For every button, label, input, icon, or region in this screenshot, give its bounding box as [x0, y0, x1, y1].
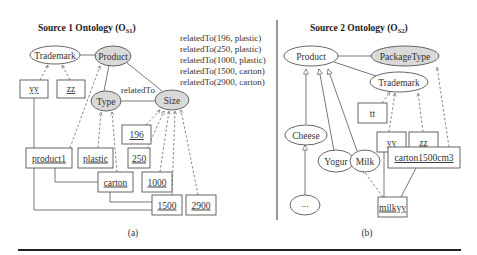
concept-milk-label: Milk — [356, 157, 375, 167]
instance-tt-label: tt — [370, 109, 376, 119]
instance-196-label: 196 — [129, 130, 144, 140]
ontology-diagram: Source 1 Ontology (OS1) Trademark Produc… — [0, 0, 477, 255]
dash-zz-trademark — [62, 65, 70, 80]
dash-196-size — [146, 110, 160, 125]
related-to-edge-label: relatedTo — [121, 85, 155, 95]
instance-carton-label: carton — [104, 178, 128, 188]
instance-yy-label: yy — [387, 138, 397, 148]
concept-type-label: Type — [97, 97, 116, 107]
instance-250-label: 250 — [132, 154, 147, 164]
dash-carton1500cm3-packagetype — [437, 67, 449, 147]
panel-b-caption: (b) — [361, 228, 372, 239]
panel-a-title: Source 1 Ontology (OS1) — [38, 23, 136, 34]
concept-product-label: Product — [296, 52, 326, 62]
instance-plastic-label: plastic — [83, 154, 108, 164]
dash-1000-size — [160, 111, 169, 172]
dash-yy-trademark — [389, 93, 395, 132]
edge-product-trademark — [334, 62, 376, 76]
edge-carton-1500 — [110, 192, 152, 202]
instance-milkyy-label: milkyy — [379, 203, 406, 213]
subclass-milk-product — [328, 69, 357, 151]
concept-packagetype-label: PackageType — [380, 52, 431, 62]
relation-item: relatedTo(250, plastic) — [180, 44, 261, 54]
dash-tt-trademark — [382, 92, 390, 103]
dash-plastic-type — [98, 112, 101, 148]
relation-item: relatedTo(2900, carton) — [180, 77, 265, 87]
edge-carton1500cm3-milkyy — [401, 168, 416, 197]
instance-yy-label: yy — [29, 84, 39, 94]
concept-size-label: Size — [164, 96, 180, 106]
instance-2900-label: 2900 — [192, 201, 211, 211]
related-to-list: relatedTo(196, plastic) relatedTo(250, p… — [180, 33, 266, 87]
instance-1500-label: 1500 — [158, 201, 177, 211]
concept-trademark-label: Trademark — [378, 78, 420, 88]
concept-product-label: Product — [98, 52, 128, 62]
concept-trademark-label: Trademark — [34, 51, 76, 61]
instance-carton1500cm3-label: carton1500cm3 — [394, 153, 453, 163]
edge-product1-1500 — [34, 168, 152, 210]
concept-cheese-label: Cheese — [292, 131, 319, 141]
panel-a: Source 1 Ontology (OS1) Trademark Produc… — [20, 23, 266, 239]
dash-zz-trademark — [418, 93, 423, 132]
relation-item: relatedTo(196, plastic) — [180, 33, 261, 43]
panel-a-caption: (a) — [128, 228, 139, 239]
concept-yogur-label: Yogur — [324, 157, 348, 167]
instance-1000-label: 1000 — [148, 178, 167, 188]
instance-zz-label: zz — [419, 138, 427, 148]
panel-b: Source 2 Ontology (OS2) Product PackageT… — [284, 23, 460, 239]
relation-item: relatedTo(1000, plastic) — [180, 55, 266, 65]
dash-2900-size — [181, 110, 198, 195]
relation-item: relatedTo(1500, carton) — [180, 66, 265, 76]
edge-product1-carton — [55, 168, 98, 182]
dash-milkyy-milk — [363, 170, 383, 197]
edge-product-type — [104, 65, 109, 91]
instance-product1-label: product1 — [32, 154, 66, 164]
concept-ellipsis-label: ... — [301, 199, 308, 209]
instance-zz-label: zz — [67, 84, 75, 94]
panel-b-title: Source 2 Ontology (OS2) — [310, 23, 408, 34]
dash-yy-trademark — [40, 65, 48, 80]
